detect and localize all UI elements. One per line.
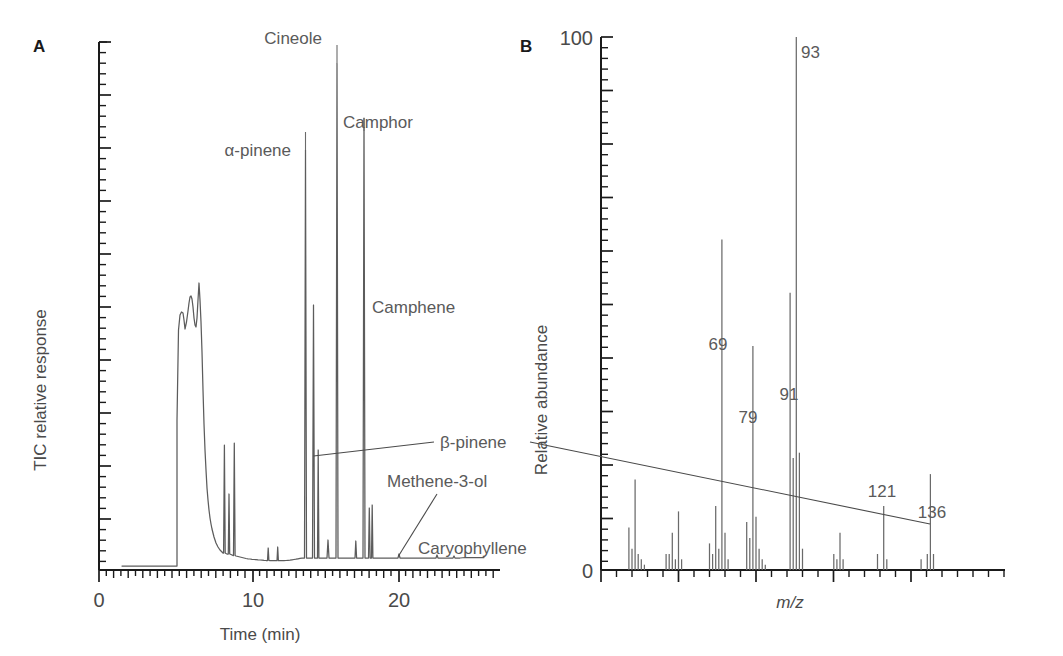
mz-peak-label-93: 93 [801,43,820,62]
peak-label-beta-pinene: β-pinene [440,433,507,452]
mz-peak-label-91: 91 [780,385,799,404]
panel-b-y-ticks [601,37,613,561]
panel-b: B Relative abundance [520,27,1005,612]
mz-peak-label-79: 79 [739,408,758,427]
panel-a-x-ticks [99,570,493,582]
panel-a-xtick-0: 0 [93,589,104,611]
panel-b-x-ticks [601,570,1004,582]
peak-label-caryophyllene: Caryophyllene [418,539,527,558]
leader-beta-pinene [314,442,435,456]
panel-b-ytick-100: 100 [560,27,593,49]
mz-label-z: z [794,593,804,612]
panel-a-letter: A [33,37,45,56]
peak-label-camphene: Camphene [372,298,455,317]
panel-a-x-axis-label: Time (min) [220,625,301,644]
peak-label-cineole: Cineole [264,29,322,48]
svg-text:m/z: m/z [776,593,804,612]
panel-a-xtick-20: 20 [388,589,410,611]
figure-container: A TIC relative response [0,0,1063,656]
peak-label-alpha-pinene: α-pinene [224,141,291,160]
mz-label-m: m [776,593,790,612]
panel-b-letter: B [520,37,532,56]
figure-svg: A TIC relative response [0,0,1063,656]
peak-label-camphor: Camphor [343,113,413,132]
panel-b-x-axis-label: m/z [776,593,804,612]
panel-a-xtick-10: 10 [242,589,264,611]
panel-a: A TIC relative response [31,29,527,644]
mz-peak-label-136: 136 [918,503,946,522]
panel-a-y-axis-label: TIC relative response [31,309,50,471]
peak-label-methene-3-ol: Methene-3-ol [387,472,487,491]
panel-a-label-stems [306,45,365,150]
panel-a-y-ticks [99,42,111,561]
panel-b-ytick-0: 0 [582,560,593,582]
mz-peak-label-69: 69 [709,335,728,354]
mz-peak-label-121: 121 [868,482,896,501]
panel-b-y-axis-label: Relative abundance [532,325,551,475]
